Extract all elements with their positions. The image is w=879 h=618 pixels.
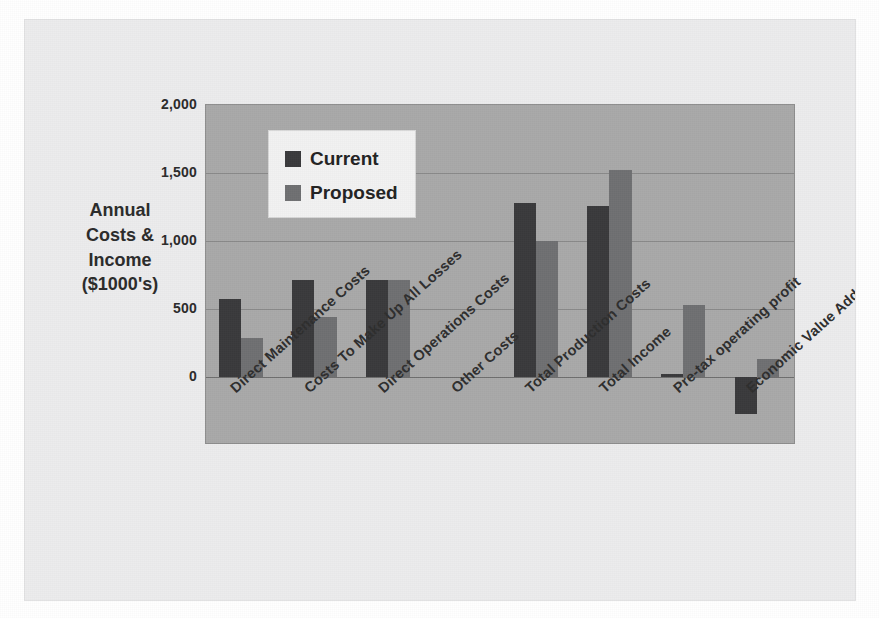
- scanned-chart-image: Annual Costs & Income ($1000's) 2,0001,5…: [0, 0, 879, 618]
- bar-proposed-2: [388, 280, 410, 377]
- bar-current-4: [514, 203, 536, 377]
- bar-current-0: [219, 299, 241, 377]
- y-axis-tick-labels: 2,0001,5001,0005000: [125, 104, 197, 444]
- bar-current-5: [587, 206, 609, 377]
- bar-proposed-5: [609, 170, 631, 377]
- y-tick-label-2000: 2,000: [127, 96, 197, 112]
- legend-label-current: Current: [310, 148, 379, 170]
- chart-legend: Current Proposed: [268, 130, 416, 218]
- bar-current-1: [292, 280, 314, 377]
- bar-current-6: [661, 374, 683, 377]
- legend-label-proposed: Proposed: [310, 182, 398, 204]
- bar-current-2: [366, 280, 388, 377]
- plot-area: Current Proposed: [205, 104, 795, 444]
- legend-item-current: Current: [285, 142, 415, 176]
- bar-proposed-1: [314, 317, 336, 377]
- y-tick-label-1000: 1,000: [127, 232, 197, 248]
- chart-sheet: Annual Costs & Income ($1000's) 2,0001,5…: [25, 20, 855, 600]
- legend-swatch-proposed-icon: [285, 185, 301, 201]
- bar-proposed-7: [757, 359, 779, 377]
- bar-current-7: [735, 377, 757, 414]
- bar-proposed-0: [241, 338, 263, 377]
- y-tick-label-500: 500: [127, 300, 197, 316]
- bar-proposed-6: [683, 305, 705, 377]
- legend-swatch-current-icon: [285, 151, 301, 167]
- y-tick-label-0: 0: [127, 368, 197, 384]
- legend-item-proposed: Proposed: [285, 176, 415, 210]
- bar-proposed-4: [536, 241, 558, 377]
- y-tick-label-1500: 1,500: [127, 164, 197, 180]
